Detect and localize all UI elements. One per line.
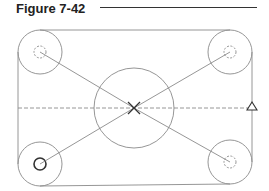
triangle-marker-icon (247, 102, 257, 110)
cad-drawing (0, 0, 269, 191)
